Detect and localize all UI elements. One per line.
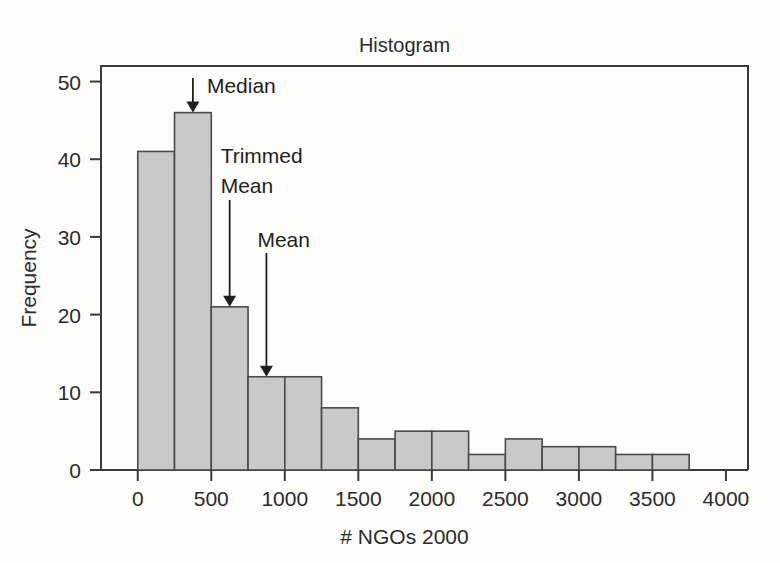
histogram-bar xyxy=(542,447,579,470)
histogram-bar xyxy=(579,447,616,470)
trimmed-mean-label-line1: Trimmed xyxy=(221,144,303,167)
histogram-bar xyxy=(432,431,469,470)
x-tick-label: 3000 xyxy=(556,487,603,510)
x-tick-label: 2500 xyxy=(482,487,529,510)
histogram-bar xyxy=(138,151,175,470)
histogram-bar xyxy=(395,431,432,470)
histogram-bar xyxy=(211,307,248,470)
y-tick-label: 10 xyxy=(58,381,81,404)
x-tick-label: 1500 xyxy=(335,487,382,510)
histogram-bar xyxy=(505,439,542,470)
median-label: Median xyxy=(207,74,276,97)
histogram-chart: 05001000150020002500300035004000# NGOs 2… xyxy=(0,0,780,563)
annotation-arrow-head xyxy=(260,366,273,377)
mean-label: Mean xyxy=(257,228,310,251)
y-tick-label: 20 xyxy=(58,304,81,327)
chart-title: Histogram xyxy=(359,34,450,56)
histogram-figure: 05001000150020002500300035004000# NGOs 2… xyxy=(0,0,780,563)
x-tick-label: 4000 xyxy=(703,487,750,510)
histogram-bar xyxy=(652,454,689,470)
trimmed-mean-label-line2: Mean xyxy=(221,174,274,197)
annotation-arrow-head xyxy=(223,296,236,307)
x-tick-label: 0 xyxy=(132,487,144,510)
histogram-bar xyxy=(248,377,285,470)
y-tick-label: 50 xyxy=(58,71,81,94)
histogram-bar xyxy=(358,439,395,470)
x-tick-label: 500 xyxy=(194,487,229,510)
y-tick-label: 0 xyxy=(69,459,81,482)
y-tick-label: 40 xyxy=(58,148,81,171)
histogram-bar xyxy=(175,113,212,470)
annotation-arrow-head xyxy=(186,102,199,113)
y-axis-title: Frequency xyxy=(17,228,40,328)
x-tick-label: 1000 xyxy=(261,487,308,510)
x-axis-title: # NGOs 2000 xyxy=(340,525,468,548)
histogram-bar xyxy=(469,454,506,470)
mean-arrow xyxy=(260,253,273,377)
histogram-bar xyxy=(322,408,359,470)
x-axis: 05001000150020002500300035004000# NGOs 2… xyxy=(132,470,749,548)
trimmed-mean-arrow xyxy=(223,200,236,307)
x-tick-label: 2000 xyxy=(408,487,455,510)
histogram-bar xyxy=(616,454,653,470)
y-tick-label: 30 xyxy=(58,226,81,249)
median-arrow xyxy=(186,78,199,113)
histogram-bar xyxy=(285,377,322,470)
x-tick-label: 3500 xyxy=(629,487,676,510)
y-axis: 01020304050Frequency xyxy=(17,71,101,482)
